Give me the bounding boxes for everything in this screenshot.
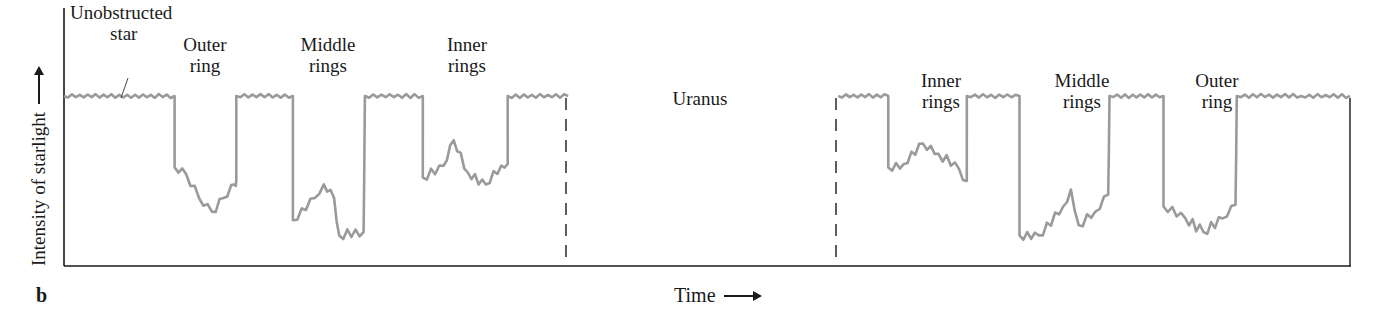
label-line: Outer [1184,70,1250,91]
label-middle-rings-left: Middle rings [290,34,366,76]
light-curve-path [64,94,568,239]
arrow-right-icon [724,295,760,297]
label-unobstructed-line2: star [70,23,172,44]
label-line: rings [290,55,366,76]
label-uranus: Uranus [660,88,740,109]
label-inner-rings-left: Inner rings [432,34,502,76]
label-line: rings [1044,91,1120,112]
label-line: Outer [172,34,238,55]
label-line: ring [172,55,238,76]
label-outer-ring-left: Outer ring [172,34,238,76]
label-line: ring [1184,91,1250,112]
y-axis-label: Intensity of starlight [28,68,50,266]
x-axis-label-text: Time [674,284,716,307]
x-axis-label: Time [674,284,760,307]
light-curve-signal [64,94,1350,240]
label-middle-rings-right: Middle rings [1044,70,1120,112]
label-unobstructed-line1: Unobstructed [70,2,172,23]
arrow-up-icon [38,68,40,104]
label-inner-rings-right: Inner rings [906,70,976,112]
label-line: Inner [432,34,502,55]
label-line: Middle [1044,70,1120,91]
panel-label: b [36,284,47,307]
label-line: Inner [906,70,976,91]
label-line: Middle [290,34,366,55]
label-line: rings [906,91,976,112]
light-curve-path [838,94,1350,240]
label-outer-ring-right: Outer ring [1184,70,1250,112]
y-axis-label-text: Intensity of starlight [28,112,50,266]
label-line: rings [432,55,502,76]
label-unobstructed: Unobstructed star [70,2,172,44]
label-line: Uranus [660,88,740,109]
